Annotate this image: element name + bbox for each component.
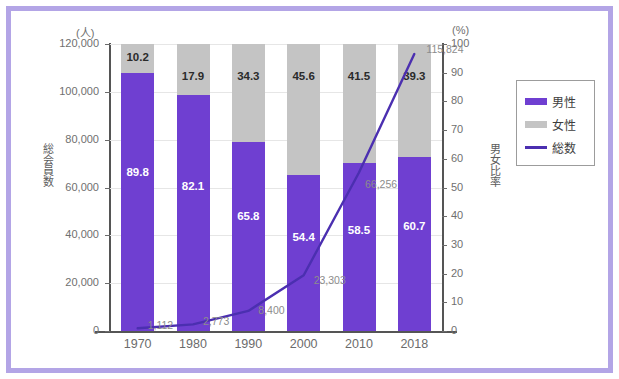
trend-point-label: 8,400	[258, 304, 284, 316]
right-axis-tick	[442, 101, 447, 102]
trend-point-label: 23,303	[314, 274, 346, 286]
right-axis-tick-label: 0	[451, 324, 487, 336]
right-axis-title: 男女比率	[489, 143, 500, 187]
left-axis-tick-label: 20,000	[37, 276, 99, 288]
right-axis-tick	[442, 130, 447, 131]
chart-canvas: (人) (%) 総会員数 男女比率 020,00040,00060,00080,…	[0, 0, 619, 379]
right-axis-unit: (%)	[452, 24, 469, 36]
legend-item[interactable]: 女性	[525, 113, 594, 136]
right-axis-tick-label: 10	[451, 295, 487, 307]
trend-point-label: 2,773	[203, 315, 229, 327]
legend-item[interactable]: 総数	[525, 136, 594, 159]
right-axis-tick	[442, 245, 447, 246]
right-axis-tick-label: 90	[451, 66, 487, 78]
legend-item-label: 女性	[552, 116, 576, 133]
chart-legend: 男性女性総数	[516, 80, 595, 166]
chart-page: (人) (%) 総会員数 男女比率 020,00040,00060,00080,…	[0, 0, 619, 379]
right-axis-tick	[442, 159, 447, 160]
right-axis-tick-label: 30	[451, 238, 487, 250]
legend-line-icon	[525, 146, 547, 149]
left-axis-tick-label: 100,000	[37, 85, 99, 97]
right-axis-tick	[442, 188, 447, 189]
legend-item[interactable]: 男性	[525, 90, 594, 113]
right-axis-tick-label: 20	[451, 267, 487, 279]
left-axis-tick-label: 60,000	[37, 181, 99, 193]
left-axis-tick-label: 40,000	[37, 228, 99, 240]
right-axis-tick	[442, 216, 447, 217]
left-axis-tick-label: 0	[37, 324, 99, 336]
trend-point-label: 1,112	[148, 319, 174, 331]
trend-line-labels: 1,1122,7738,40023,30366,256115,824	[110, 44, 442, 331]
legend-item-label: 男性	[552, 93, 576, 110]
right-axis-tick	[442, 331, 447, 332]
left-axis-tick-label: 120,000	[37, 37, 99, 49]
right-axis-tick-label: 60	[451, 152, 487, 164]
right-axis-tick	[442, 73, 447, 74]
legend-swatch-icon	[525, 121, 547, 128]
left-axis-tick-label: 80,000	[37, 133, 99, 145]
x-axis-label: 2018	[382, 337, 446, 351]
right-axis-tick-label: 40	[451, 209, 487, 221]
right-axis-tick	[442, 274, 447, 275]
right-axis-tick-label: 50	[451, 181, 487, 193]
right-axis-tick-label: 70	[451, 123, 487, 135]
right-axis-tick-label: 80	[451, 94, 487, 106]
legend-item-label: 総数	[552, 139, 576, 156]
legend-swatch-icon	[525, 98, 547, 105]
left-axis-tick	[105, 331, 110, 332]
right-axis-tick	[442, 302, 447, 303]
trend-point-label: 66,256	[365, 178, 397, 190]
trend-point-label: 115,824	[426, 43, 463, 55]
